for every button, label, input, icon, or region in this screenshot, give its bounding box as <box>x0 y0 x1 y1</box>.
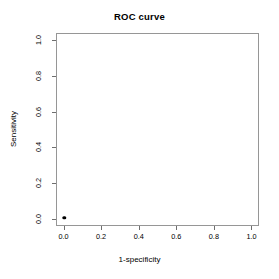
y-axis-tick-label: 0.4 <box>34 142 43 152</box>
y-axis-tick <box>52 219 56 220</box>
roc-curve-plot: ROC curve 0.00.20.40.60.81.00.00.20.40.6… <box>0 0 279 279</box>
x-axis-tick <box>64 226 65 230</box>
y-axis-tick <box>52 76 56 77</box>
y-axis-tick-label: 0.8 <box>34 71 43 81</box>
y-axis-tick-label: 0.0 <box>34 214 43 224</box>
plot-panel <box>56 33 259 226</box>
data-point <box>63 216 66 219</box>
x-axis-tick-label: 0.0 <box>58 232 68 241</box>
y-axis-tick-label: 0.6 <box>34 107 43 117</box>
y-axis-tick <box>52 183 56 184</box>
x-axis-tick <box>139 226 140 230</box>
chart-title: ROC curve <box>0 11 279 22</box>
x-axis-tick-label: 0.4 <box>134 232 144 241</box>
x-axis-tick <box>251 226 252 230</box>
x-axis-title: 1-specificity <box>0 255 279 264</box>
y-axis-tick <box>52 112 56 113</box>
x-axis-tick-label: 0.8 <box>209 232 219 241</box>
y-axis-tick <box>52 40 56 41</box>
y-axis-tick-label: 1.0 <box>34 35 43 45</box>
x-axis-tick <box>214 226 215 230</box>
y-axis-title: Sensitivity <box>9 111 18 147</box>
y-axis-tick-label: 0.2 <box>34 178 43 188</box>
x-axis-tick-label: 0.6 <box>171 232 181 241</box>
data-point-layer <box>57 34 258 225</box>
y-axis-tick <box>52 147 56 148</box>
x-axis-tick-label: 1.0 <box>246 232 256 241</box>
x-axis-tick-label: 0.2 <box>96 232 106 241</box>
x-axis-tick <box>176 226 177 230</box>
x-axis-tick <box>101 226 102 230</box>
